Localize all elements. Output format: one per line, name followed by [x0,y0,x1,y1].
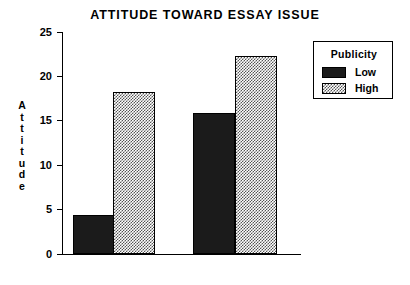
legend-item-high[interactable]: High [322,81,392,95]
y-axis-tick-label: 20 [16,71,52,82]
legend-swatch-low-icon [322,67,346,78]
y-axis-title-letter: e [12,181,32,193]
legend-label-low: Low [355,67,376,78]
y-axis-title-letter: d [12,169,32,181]
legend-item-low[interactable]: Low [322,65,392,79]
y-axis-tick-label: 25 [16,27,52,38]
legend-title: Publicity [314,48,394,60]
legend-swatch-high-icon [322,83,346,94]
y-axis-title-letter: A [12,100,32,112]
bar-group-2-high [235,56,277,254]
y-axis-title: A t t i t u d e [12,100,32,192]
legend-label-high: High [355,83,378,94]
y-axis-tick-label: 0 [16,249,52,260]
y-axis-tick-label: 5 [16,204,52,215]
chart-title: ATTITUDE TOWARD ESSAY ISSUE [0,8,410,22]
legend: Publicity Low High [313,41,393,99]
y-axis-tick-label: 10 [16,160,52,171]
bar-group-2-low [193,113,235,254]
plot-area [62,32,300,254]
y-axis-tick-label: 15 [16,115,52,126]
bar-group-1-low [73,215,114,254]
y-axis-title-letter: t [12,146,32,158]
x-axis-line [62,254,301,255]
bar-chart: ATTITUDE TOWARD ESSAY ISSUE A t t i t u … [0,0,410,285]
bar-group-1-high [113,92,155,255]
